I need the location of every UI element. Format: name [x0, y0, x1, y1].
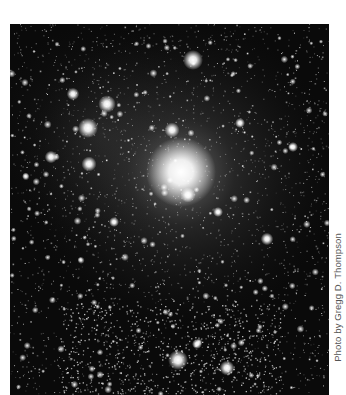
photo-credit-text: Photo by Gregg D. Thompson [332, 233, 343, 362]
starfield-canvas [10, 24, 329, 395]
star-cluster-photo [10, 24, 329, 395]
photo-credit: Photo by Gregg D. Thompson [329, 232, 346, 362]
